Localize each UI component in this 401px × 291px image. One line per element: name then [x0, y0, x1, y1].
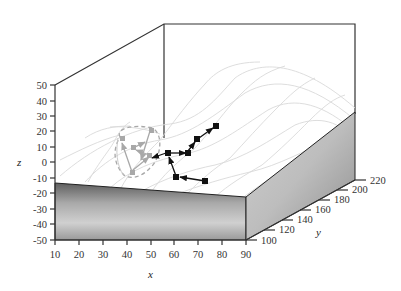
z-tick: -40 — [33, 219, 47, 230]
trajectory-point — [165, 150, 171, 156]
y-tick: 100 — [261, 235, 277, 246]
z-tick: 50 — [37, 80, 48, 91]
y-tick: 180 — [334, 194, 350, 205]
z-tick: -50 — [33, 235, 47, 246]
z-axis — [50, 85, 55, 240]
y-tick: 160 — [315, 204, 331, 215]
z-tick-labels: 50 40 30 20 10 0 -10 -20 -30 -40 -50 — [33, 80, 47, 246]
z-tick: 0 — [42, 157, 47, 168]
z-tick: 40 — [37, 96, 48, 107]
x-axis-title: x — [147, 268, 153, 280]
x-tick: 50 — [146, 249, 157, 260]
z-tick: -20 — [33, 188, 47, 199]
x-tick-labels: 10 20 30 40 50 60 70 80 90 — [50, 249, 252, 260]
x-tick: 90 — [241, 249, 252, 260]
trajectory-point — [185, 150, 191, 156]
z-tick: 10 — [37, 142, 48, 153]
y-tick: 140 — [297, 214, 313, 225]
floor-front-face — [55, 183, 246, 240]
z-tick: 30 — [37, 111, 48, 122]
chart-3d: 50 40 30 20 10 0 -10 -20 -30 -40 -50 z 1… — [0, 0, 401, 291]
x-tick: 60 — [169, 249, 180, 260]
x-tick: 80 — [217, 249, 228, 260]
y-axis-title: y — [315, 226, 321, 238]
trajectory-point — [173, 174, 179, 180]
z-tick: 20 — [37, 126, 48, 137]
z-tick: -30 — [33, 204, 47, 215]
x-tick: 70 — [193, 249, 204, 260]
y-tick: 120 — [279, 224, 295, 235]
y-tick: 200 — [352, 184, 368, 195]
trajectory-point — [213, 123, 219, 129]
x-axis — [55, 240, 246, 245]
z-tick: -10 — [33, 173, 47, 184]
trajectory-point — [202, 178, 208, 184]
x-tick: 40 — [122, 249, 133, 260]
x-tick: 20 — [74, 249, 85, 260]
y-tick: 220 — [370, 175, 386, 186]
trajectory-point — [194, 136, 200, 142]
z-axis-title: z — [16, 156, 22, 168]
x-tick: 30 — [98, 249, 109, 260]
x-tick: 10 — [50, 249, 61, 260]
